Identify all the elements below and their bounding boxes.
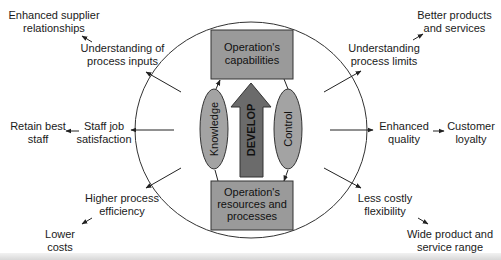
control-label: Control: [282, 111, 294, 146]
better-products-services-label: Better products and services: [412, 9, 497, 35]
label-line: Higher process: [82, 192, 162, 205]
retain-best-staff-label: Retain best staff: [8, 120, 68, 146]
label-line: and services: [412, 22, 497, 35]
capabilities-box-line1: Operation's: [224, 41, 280, 53]
label-line: quality: [378, 133, 430, 146]
bottom-edge-strip: [0, 253, 501, 260]
label-line: staff: [8, 133, 68, 146]
label-line: Better products: [412, 9, 497, 22]
label-line: flexibility: [350, 205, 420, 218]
control-to-resources-arrow: [284, 170, 288, 181]
label-line: Customer: [444, 120, 498, 133]
label-line: Understanding: [345, 42, 423, 55]
spoke-lower-left: [146, 168, 181, 188]
lower-costs-label: Lower costs: [45, 228, 75, 254]
resources-to-knowledge-line: [215, 170, 218, 181]
customer-loyalty-label: Customer loyalty: [444, 120, 498, 146]
understanding-process-inputs-label: Understanding of process inputs: [80, 42, 165, 68]
label-line: Wide product and: [402, 228, 498, 241]
spoke-upper-left: [146, 72, 181, 92]
higher-process-efficiency-label: Higher process efficiency: [82, 192, 162, 218]
label-line: Retain best: [8, 120, 68, 133]
knowledge-to-capabilities-arrow: [216, 80, 220, 89]
understanding-process-limits-label: Understanding process limits: [345, 42, 423, 68]
capabilities-box-line2: capabilities: [225, 54, 280, 66]
knowledge-label: Knowledge: [208, 102, 220, 156]
spoke-upper-right: [324, 71, 361, 92]
label-line: Enhanced: [378, 120, 430, 133]
enhanced-supplier-relationships-label: Enhanced supplier relationships: [4, 9, 104, 35]
label-line: process inputs: [80, 55, 165, 68]
less-costly-flexibility-label: Less costly flexibility: [350, 192, 420, 218]
resources-box-line3: processes: [227, 210, 278, 222]
label-line: process limits: [345, 55, 423, 68]
label-line: Enhanced supplier: [4, 9, 104, 22]
arrow-lower-right-outer: [418, 218, 428, 224]
enhanced-quality-label: Enhanced quality: [378, 120, 430, 146]
diagram-canvas: Operation's capabilities Operation's res…: [0, 0, 501, 260]
label-line: satisfaction: [74, 133, 134, 146]
label-line: loyalty: [444, 133, 498, 146]
label-line: Staff job: [74, 120, 134, 133]
label-line: Lower: [45, 228, 75, 241]
label-line: relationships: [4, 22, 104, 35]
develop-arrow-label: DEVELOP: [245, 104, 257, 157]
wide-product-service-range-label: Wide product and service range: [402, 228, 498, 254]
label-line: efficiency: [82, 205, 162, 218]
capabilities-to-control-line: [284, 79, 288, 89]
staff-job-satisfaction-label: Staff job satisfaction: [74, 120, 134, 146]
resources-box-line2: resources and: [217, 198, 287, 210]
arrow-lower-left-outer: [82, 218, 92, 224]
label-line: Understanding of: [80, 42, 165, 55]
label-line: Less costly: [350, 192, 420, 205]
resources-box-line1: Operation's: [224, 186, 280, 198]
